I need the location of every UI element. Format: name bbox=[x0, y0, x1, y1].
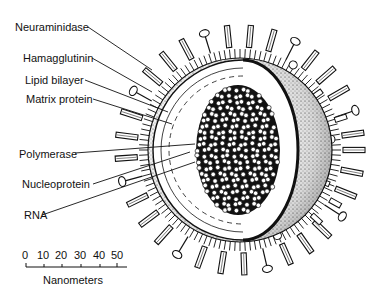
scale-tick-50: 50 bbox=[111, 249, 123, 261]
scale-unit-label: Nanometers bbox=[43, 274, 103, 286]
label-polymerase: Polymerase bbox=[19, 148, 77, 160]
scale-tick-0: 0 bbox=[22, 249, 28, 261]
label-neuraminidase: Neuraminidase bbox=[15, 21, 89, 33]
scale-tick-10: 10 bbox=[37, 249, 49, 261]
scale-tick-40: 40 bbox=[93, 249, 105, 261]
label-nucleoprotein: Nucleoprotein bbox=[22, 178, 90, 190]
label-matrix-protein: Matrix protein bbox=[26, 93, 93, 105]
scale-tick-20: 20 bbox=[55, 249, 67, 261]
label-lipid-bilayer: Lipid bilayer bbox=[25, 74, 84, 86]
scale-bar bbox=[26, 263, 127, 267]
label-rna: RNA bbox=[24, 209, 47, 221]
scale-tick-30: 30 bbox=[74, 249, 86, 261]
label-hamagglutinin: Hamagglutinin bbox=[23, 52, 93, 64]
virion-diagram: Neuraminidase Hamagglutinin Lipid bilaye… bbox=[0, 0, 380, 300]
